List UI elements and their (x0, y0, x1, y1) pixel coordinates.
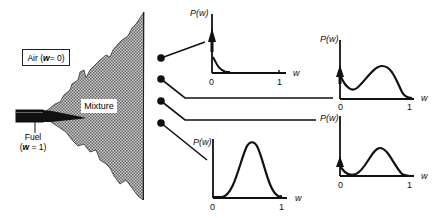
leader-line-3 (161, 101, 316, 120)
pdf-4-ylabel: P(w) (193, 138, 212, 147)
pdf-4-tick-0: 0 (210, 203, 215, 212)
pdf-1-tick-1: 1 (277, 78, 282, 87)
fuel-value: (w = 1) (18, 143, 48, 153)
pdf-3-tick-1: 1 (407, 181, 412, 190)
pdf-plot-2 (336, 40, 414, 99)
pdf-2-tick-1: 1 (407, 103, 412, 112)
fuel-nozzle (16, 110, 43, 122)
air-text: Air ( (27, 53, 43, 63)
air-value: = 0) (50, 53, 65, 63)
pdf-2-ylabel: P(w) (320, 35, 339, 44)
air-label: Air (w = 0) (22, 49, 70, 66)
fuel-label: Fuel (w = 1) (18, 133, 48, 153)
air-var: w (43, 53, 50, 63)
pdf-4-tick-1: 1 (279, 203, 284, 212)
pdf-1-ylabel: P(w) (190, 9, 209, 18)
delta-arrow-icon (336, 65, 344, 77)
mixture-label: Mixture (81, 99, 117, 113)
pdf-plot-3 (336, 116, 414, 176)
pdf-3-xlabel: w (421, 172, 428, 181)
pdf-2-xlabel: w (421, 94, 428, 103)
leader-line-1 (161, 42, 205, 58)
pdf-3-ylabel: P(w) (320, 114, 339, 123)
pdf-1-tick-0: 0 (209, 78, 214, 87)
leader-line-2 (161, 79, 333, 98)
pdf-plot-1 (208, 14, 286, 73)
pdf-4-xlabel: w (295, 194, 302, 203)
diagram-canvas (0, 0, 444, 218)
delta-arrow-icon (208, 28, 216, 42)
pdf-3-tick-0: 0 (338, 181, 343, 190)
pdf-1-xlabel: w (293, 69, 300, 78)
pdf-plot-4 (213, 139, 287, 198)
pdf-2-tick-0: 0 (338, 103, 343, 112)
